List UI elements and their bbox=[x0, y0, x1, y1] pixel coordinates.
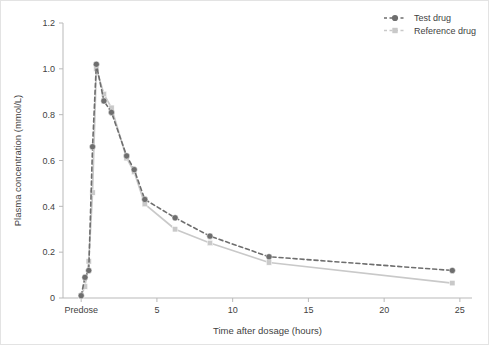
data-point bbox=[266, 254, 272, 260]
data-point bbox=[142, 196, 148, 202]
plot-area: 00.20.40.60.81.01.2Predose510152025Time … bbox=[1, 1, 489, 345]
data-point bbox=[86, 267, 92, 273]
data-point bbox=[266, 260, 271, 265]
data-point bbox=[101, 98, 107, 104]
y-axis-tick-label: 0 bbox=[50, 293, 55, 303]
x-axis-tick-label: Predose bbox=[64, 305, 98, 315]
y-axis-tick-label: 0.4 bbox=[42, 202, 55, 212]
data-point bbox=[78, 293, 84, 299]
data-point bbox=[93, 61, 99, 67]
legend-label: Reference drug bbox=[414, 26, 476, 36]
data-point bbox=[449, 267, 455, 273]
x-axis-tick-label: 5 bbox=[154, 305, 159, 315]
data-point bbox=[172, 227, 177, 232]
legend-marker bbox=[392, 15, 398, 21]
data-point bbox=[207, 240, 212, 245]
y-axis-tick-label: 0.6 bbox=[42, 156, 55, 166]
data-point bbox=[89, 144, 95, 150]
chart-figure: 00.20.40.60.81.01.2Predose510152025Time … bbox=[0, 0, 489, 345]
data-point bbox=[108, 109, 114, 115]
data-point bbox=[124, 153, 130, 159]
data-point bbox=[82, 274, 88, 280]
x-axis-title: Time after dosage (hours) bbox=[213, 325, 322, 336]
y-axis-title: Plasma concentration (mmol/L) bbox=[12, 95, 23, 226]
data-point bbox=[450, 280, 455, 285]
x-axis-tick-label: 20 bbox=[379, 305, 389, 315]
y-axis-tick-label: 0.8 bbox=[42, 110, 55, 120]
data-point bbox=[131, 167, 137, 173]
y-axis-tick-label: 0.2 bbox=[42, 247, 55, 257]
data-point bbox=[207, 233, 213, 239]
x-axis-tick-label: 10 bbox=[228, 305, 238, 315]
x-axis-tick-label: 25 bbox=[455, 305, 465, 315]
x-axis-tick-label: 15 bbox=[303, 305, 313, 315]
legend-marker bbox=[392, 28, 397, 33]
legend-label: Test drug bbox=[414, 13, 451, 23]
y-axis-tick-label: 1.0 bbox=[42, 64, 55, 74]
y-axis-tick-label: 1.2 bbox=[42, 18, 55, 28]
data-point bbox=[172, 215, 178, 221]
